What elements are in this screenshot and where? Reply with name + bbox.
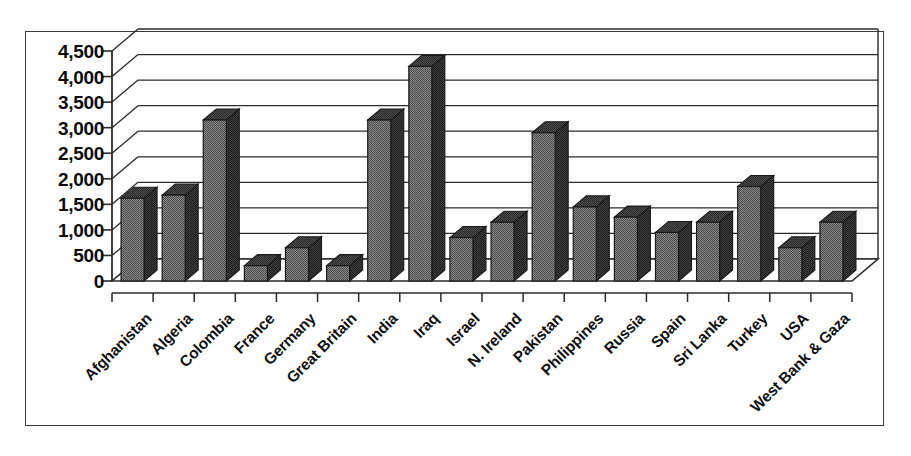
chart-figure: 4,5004,0003,5003,0002,5002,0001,5001,000…	[0, 0, 911, 456]
x-axis-labels: AfghanistanAlgeriaColombiaFranceGermanyG…	[0, 0, 911, 456]
